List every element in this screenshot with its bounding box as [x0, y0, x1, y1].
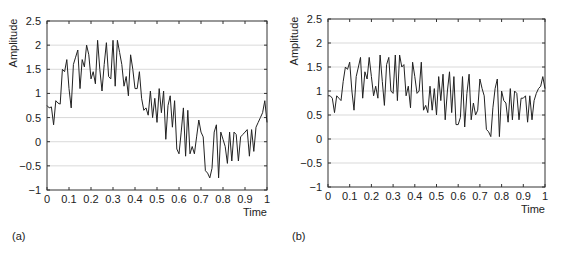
y-tick-label: 0.5: [307, 109, 322, 121]
x-tick-label: 0: [325, 190, 331, 202]
x-tick-label: 0.7: [472, 190, 487, 202]
panel-label-a: (a): [12, 230, 25, 242]
y-tick-label: −0.5: [19, 160, 41, 172]
x-tick-label: 0.5: [149, 193, 164, 205]
y-tick-label: 2.5: [307, 13, 322, 25]
panel-label-b: (b): [292, 230, 305, 242]
y-tick-label: 0: [316, 133, 322, 145]
chart-panel-a: −1−0.500.511.522.500.10.20.30.40.50.60.7…: [0, 0, 281, 257]
y-axis-title: Amplitude: [7, 19, 19, 68]
y-tick-label: 2: [316, 37, 322, 49]
x-tick-label: 1: [542, 190, 548, 202]
signal-line: [47, 40, 267, 178]
y-axis-title: Amplitude: [288, 17, 300, 66]
plot-area-frame: [47, 21, 267, 190]
y-tick-label: 2.5: [26, 15, 41, 27]
x-tick-label: 0.3: [105, 193, 120, 205]
x-tick-label: 0: [44, 193, 50, 205]
x-tick-label: 0.7: [193, 193, 208, 205]
x-tick-label: 0.6: [451, 190, 466, 202]
chart-panel-b: −1−0.500.511.522.500.10.20.30.40.50.60.7…: [281, 0, 562, 257]
x-tick-label: 0.5: [429, 190, 444, 202]
line-chart-b: −1−0.500.511.522.500.10.20.30.40.50.60.7…: [281, 0, 562, 230]
line-chart-a: −1−0.500.511.522.500.10.20.30.40.50.60.7…: [0, 0, 281, 230]
y-tick-label: −0.5: [300, 157, 322, 169]
y-tick-label: −1: [28, 184, 41, 196]
x-tick-label: 1: [264, 193, 270, 205]
x-tick-label: 0.9: [237, 193, 252, 205]
x-axis-title: Time: [521, 203, 545, 215]
y-tick-label: 1.5: [307, 61, 322, 73]
x-tick-label: 0.3: [385, 190, 400, 202]
y-tick-label: −1: [309, 181, 322, 193]
x-tick-label: 0.8: [494, 190, 509, 202]
x-axis-title: Time: [243, 206, 267, 218]
y-tick-label: 1.5: [26, 63, 41, 75]
y-tick-label: 1: [316, 85, 322, 97]
x-tick-label: 0.2: [83, 193, 98, 205]
y-tick-label: 2: [35, 39, 41, 51]
x-tick-label: 0.4: [407, 190, 422, 202]
y-tick-label: 1: [35, 87, 41, 99]
y-tick-label: 0.5: [26, 112, 41, 124]
x-tick-label: 0.9: [516, 190, 531, 202]
plot-area-frame: [328, 19, 545, 187]
x-tick-label: 0.8: [215, 193, 230, 205]
x-tick-label: 0.2: [364, 190, 379, 202]
x-tick-label: 0.1: [61, 193, 76, 205]
x-tick-label: 0.4: [127, 193, 142, 205]
y-tick-label: 0: [35, 136, 41, 148]
x-tick-label: 0.6: [171, 193, 186, 205]
x-tick-label: 0.1: [342, 190, 357, 202]
